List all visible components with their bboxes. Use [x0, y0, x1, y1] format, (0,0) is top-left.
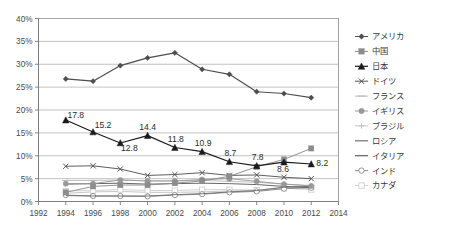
legend-label: ロシア: [372, 136, 396, 146]
data-point-label: 8.7: [224, 148, 236, 158]
y-axis-tick-label: 0%: [21, 198, 33, 207]
chart-legend: アメリカ中国日本ドイツフランスイギリスブラジルロシアイタリアインドカナダ: [355, 31, 404, 190]
data-point-label: 7.8: [252, 152, 264, 162]
legend-item-5[interactable]: イギリス: [355, 106, 404, 116]
y-axis-tick-label: 10%: [16, 152, 32, 161]
legend-label: 日本: [372, 61, 388, 71]
legend-item-2[interactable]: 日本: [355, 61, 388, 71]
x-axis-tick-label: 1994: [57, 209, 76, 218]
legend-item-7[interactable]: ロシア: [355, 136, 396, 146]
data-point-label: 11.8: [168, 134, 184, 144]
x-axis-tick-label: 2010: [275, 209, 294, 218]
x-axis-tick-label: 2004: [193, 209, 212, 218]
y-axis-tick-label: 15%: [16, 129, 32, 138]
data-point-label: 17.8: [67, 110, 84, 120]
legend-item-0[interactable]: アメリカ: [355, 31, 404, 41]
line-chart: 0%5%10%15%20%25%30%35%40% 19921994199619…: [0, 0, 452, 232]
y-axis-tick-label: 5%: [21, 175, 33, 184]
x-axis-tick-label: 2000: [138, 209, 157, 218]
legend-label: イタリア: [372, 151, 404, 161]
x-axis-tick-label: 2012: [302, 209, 321, 218]
series-0: [63, 50, 314, 100]
legend-label: 中国: [372, 46, 388, 56]
data-point-label: 10.9: [195, 138, 212, 148]
data-point-label: 8.6: [277, 164, 289, 174]
x-axis: 1992199419961998200020022004200620082010…: [29, 202, 348, 218]
y-axis: 0%5%10%15%20%25%30%35%40%: [16, 15, 38, 207]
y-axis-tick-label: 35%: [16, 37, 32, 46]
x-axis-tick-label: 2014: [329, 209, 348, 218]
legend-item-3[interactable]: ドイツ: [355, 76, 396, 86]
legend-label: アメリカ: [372, 31, 404, 41]
y-axis-tick-label: 20%: [16, 106, 32, 115]
data-point-label: 8.2: [316, 158, 328, 168]
data-point-label: 15.2: [95, 120, 112, 130]
x-axis-tick-label: 1998: [111, 209, 130, 218]
legend-label: ドイツ: [372, 76, 396, 86]
legend-item-10[interactable]: カナダ: [355, 180, 396, 190]
y-axis-tick-label: 40%: [16, 15, 32, 24]
data-labels: 17.815.212.814.411.810.98.77.88.68.2: [67, 110, 328, 174]
data-point-label: 12.8: [121, 143, 138, 153]
legend-label: カナダ: [372, 180, 396, 190]
legend-item-4[interactable]: フランス: [355, 91, 404, 101]
x-axis-tick-label: 1992: [29, 209, 48, 218]
data-point-label: 14.4: [139, 122, 156, 132]
x-axis-tick-label: 1996: [84, 209, 103, 218]
x-axis-tick-label: 2008: [248, 209, 267, 218]
grid-lines: [39, 19, 339, 179]
legend-label: インド: [372, 166, 396, 176]
x-axis-tick-label: 2006: [220, 209, 239, 218]
y-axis-tick-label: 30%: [16, 60, 32, 69]
chart-canvas: 0%5%10%15%20%25%30%35%40% 19921994199619…: [0, 0, 452, 232]
legend-item-8[interactable]: イタリア: [355, 151, 404, 161]
legend-label: フランス: [372, 91, 404, 101]
legend-label: ブラジル: [372, 121, 404, 131]
legend-item-6[interactable]: ブラジル: [355, 121, 404, 131]
legend-label: イギリス: [372, 106, 404, 116]
legend-item-9[interactable]: インド: [355, 166, 396, 176]
legend-item-1[interactable]: 中国: [355, 46, 388, 56]
y-axis-tick-label: 25%: [16, 83, 32, 92]
x-axis-tick-label: 2002: [166, 209, 185, 218]
